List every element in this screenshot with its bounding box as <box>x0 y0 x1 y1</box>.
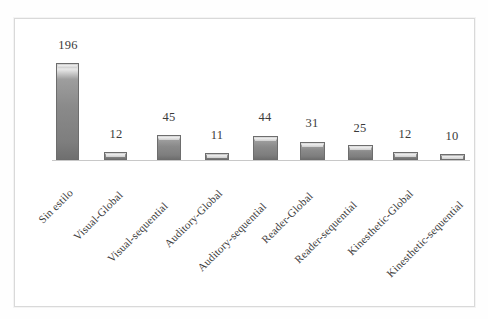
xtick-label-visual-sequential: Visual-sequential <box>105 200 170 265</box>
value-label-auditory-sequential: 44 <box>245 110 285 125</box>
value-label-kinesthetic-sequential: 10 <box>432 129 472 144</box>
bar-auditory-global <box>205 153 229 160</box>
bar-visual-global <box>104 152 127 160</box>
xtick-label-visual-global: Visual-Global <box>71 189 125 243</box>
bar-chart-figure: 196 12 45 11 44 31 25 12 10 Sin estilo V… <box>0 0 488 319</box>
xtick-label-auditory-global: Auditory-Global <box>162 187 224 249</box>
plot-area: 196 12 45 11 44 31 25 12 10 Sin estilo V… <box>0 0 488 319</box>
x-axis-line <box>52 160 470 161</box>
value-label-kinesthetic-global: 12 <box>385 127 425 142</box>
value-label-reader-global: 31 <box>292 116 332 131</box>
xtick-label-reader-global: Reader-Global <box>259 190 315 246</box>
value-label-reader-sequential: 25 <box>340 121 380 136</box>
bar-visual-sequential <box>157 135 181 160</box>
bar-sin-estilo <box>56 63 79 160</box>
xtick-label-sin-estilo: Sin estilo <box>36 186 75 225</box>
xtick-label-kinesthetic-global: Kinesthetic-Global <box>345 187 415 257</box>
bar-reader-global <box>300 142 325 160</box>
bar-reader-sequential <box>348 145 373 160</box>
bar-auditory-sequential <box>253 136 278 160</box>
value-label-visual-sequential: 45 <box>149 110 189 125</box>
bar-kinesthetic-sequential <box>440 154 465 160</box>
value-label-sin-estilo: 196 <box>48 38 88 53</box>
bar-kinesthetic-global <box>393 152 418 160</box>
value-label-auditory-global: 11 <box>197 128 237 143</box>
value-label-visual-global: 12 <box>96 127 136 142</box>
